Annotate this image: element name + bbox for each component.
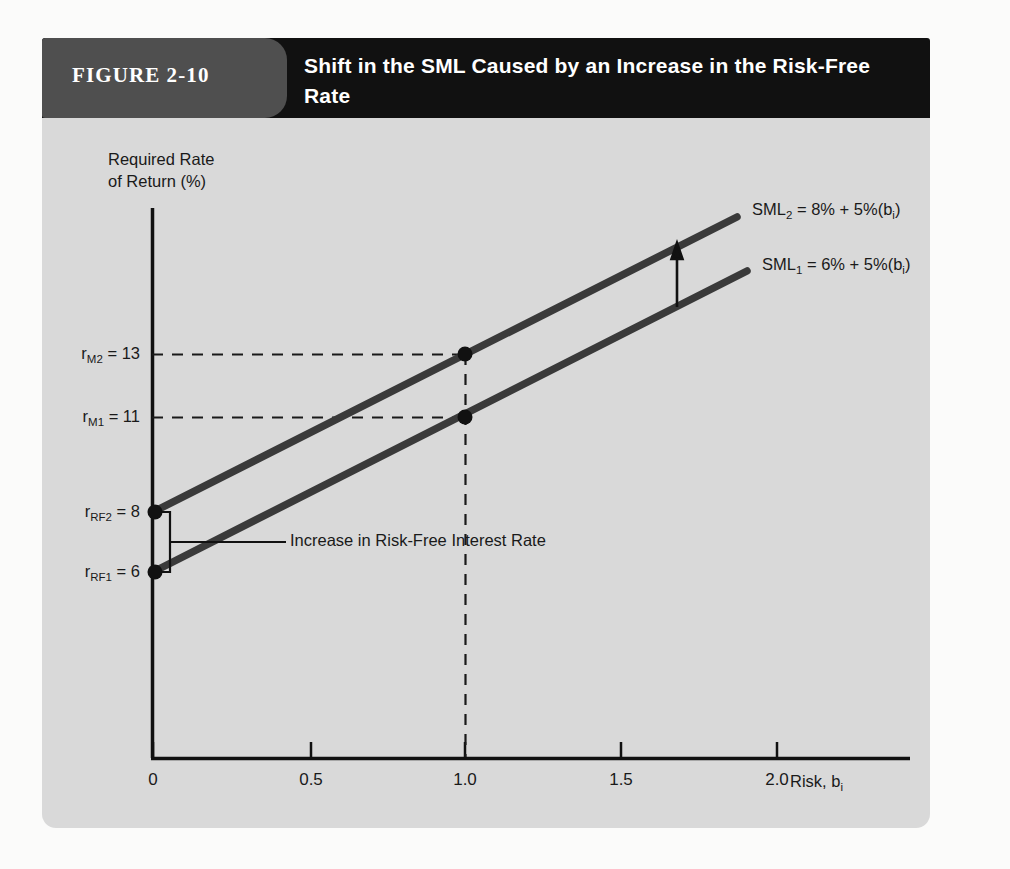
y-tick-label-rRF2: rRF2 = 8 bbox=[6, 502, 140, 523]
risk-free-increase-annotation: Increase in Risk-Free Interest Rate bbox=[290, 531, 546, 550]
x-axis-title-text: Risk, b bbox=[790, 772, 840, 790]
y-tick-rRF2-value: = 8 bbox=[112, 502, 140, 520]
figure-number-label: FIGURE 2-10 bbox=[72, 63, 210, 88]
y-axis-title-line2: of Return (%) bbox=[108, 170, 214, 192]
sml2-label-tail: ) bbox=[895, 200, 901, 218]
y-tick-rRF2-sub: RF2 bbox=[90, 511, 112, 523]
x-tick-label-1-5: 1.5 bbox=[591, 770, 651, 790]
y-tick-rM2-value: = 13 bbox=[103, 344, 140, 362]
x-tick-label-0-5: 0.5 bbox=[281, 770, 341, 790]
y-tick-label-rRF1: rRF1 = 6 bbox=[6, 562, 140, 583]
figure-title: Shift in the SML Caused by an Increase i… bbox=[304, 51, 904, 111]
x-axis-title-sub: i bbox=[840, 781, 843, 793]
sml1-label-tail: ) bbox=[905, 255, 911, 273]
sml1-label-equation: = 6% + 5%(b bbox=[802, 255, 902, 273]
y-tick-label-rM2: rM2 = 13 bbox=[6, 344, 140, 365]
y-tick-rRF1-value: = 6 bbox=[112, 562, 140, 580]
y-tick-rRF1-sub: RF1 bbox=[90, 571, 112, 583]
sml1-label: SML1 = 6% + 5%(bi) bbox=[762, 255, 910, 276]
y-axis-title-line1: Required Rate bbox=[108, 148, 214, 170]
sml2-label-equation: = 8% + 5%(b bbox=[792, 200, 892, 218]
figure-title-bar: FIGURE 2-10 Shift in the SML Caused by a… bbox=[42, 38, 930, 118]
y-axis-title: Required Rate of Return (%) bbox=[108, 148, 214, 192]
sml2-label: SML2 = 8% + 5%(bi) bbox=[752, 200, 900, 221]
sml2-label-name: SML bbox=[752, 200, 786, 218]
x-tick-label-1-0: 1.0 bbox=[435, 770, 495, 790]
y-tick-label-rM1: rM1 = 11 bbox=[6, 407, 140, 428]
x-tick-label-0: 0 bbox=[123, 770, 183, 790]
y-tick-rM1-value: = 11 bbox=[104, 407, 140, 425]
figure-page: FIGURE 2-10 Shift in the SML Caused by a… bbox=[0, 0, 1010, 869]
y-tick-rM2-sub: M2 bbox=[87, 353, 103, 365]
x-axis-title: Risk, bi bbox=[790, 772, 843, 793]
y-tick-rM1-sub: M1 bbox=[88, 416, 104, 428]
sml1-label-name: SML bbox=[762, 255, 796, 273]
